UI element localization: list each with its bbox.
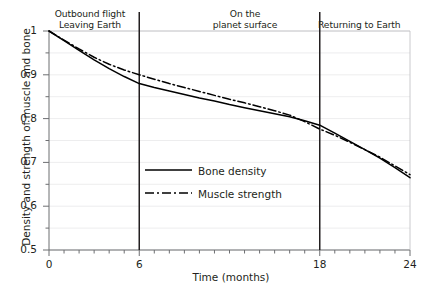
- y-tick-marks: [43, 31, 49, 250]
- chart-plot-area: [0, 0, 422, 295]
- x-tick-marks: [49, 250, 410, 256]
- legend-label-muscle-strength: Muscle strength: [198, 188, 282, 200]
- x-axis-title: Time (months): [141, 271, 321, 283]
- y-tick-label-5: 0.5: [7, 243, 37, 255]
- y-tick-label-1: 0.9: [7, 68, 37, 80]
- y-tick-label-0: 1: [7, 24, 37, 36]
- phase-divider-lines: [139, 12, 320, 250]
- x-tick-label-1: 6: [127, 258, 151, 270]
- phase-label-planet-surface: On the planet surface: [180, 8, 310, 30]
- chart-figure: Outbound flight Leaving Earth On the pla…: [0, 0, 422, 295]
- phase-label-returning-to-earth: Returning to Earth: [318, 19, 422, 30]
- phase-label-outbound-flight: Outbound flight Leaving Earth: [38, 8, 142, 30]
- y-axis-title: Density and strength of muscle and bone: [20, 17, 32, 257]
- gridlines-group: [49, 31, 410, 250]
- y-tick-label-4: 0.6: [7, 199, 37, 211]
- y-tick-label-3: 0.7: [7, 155, 37, 167]
- x-tick-label-2: 18: [308, 258, 332, 270]
- legend-label-bone-density: Bone density: [198, 165, 267, 177]
- y-tick-label-2: 0.8: [7, 112, 37, 124]
- legend-sample-lines: [145, 170, 192, 193]
- x-tick-label-0: 0: [37, 258, 61, 270]
- x-tick-label-3: 24: [398, 258, 422, 270]
